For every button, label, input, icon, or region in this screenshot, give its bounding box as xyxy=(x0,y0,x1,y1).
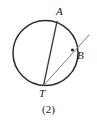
chord-t-to-a xyxy=(44,22,58,86)
geometry-figure: A B T (2) xyxy=(0,0,97,124)
point-b-marker xyxy=(71,48,74,51)
vertex-label-a: A xyxy=(56,6,63,17)
vertex-label-t: T xyxy=(39,88,45,99)
figure-caption: (2) xyxy=(0,104,97,115)
vertex-label-b: B xyxy=(77,50,84,61)
